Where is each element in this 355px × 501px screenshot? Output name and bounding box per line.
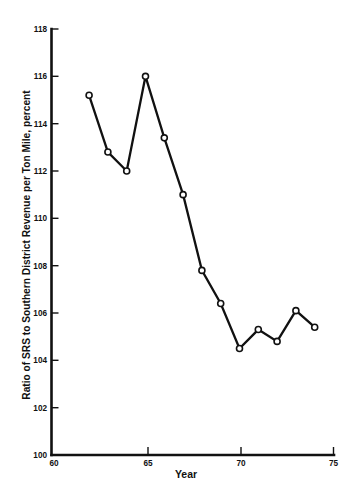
y-tick-label: 110 <box>34 214 48 223</box>
data-point <box>218 301 224 307</box>
data-point <box>124 168 130 174</box>
data-point <box>312 324 318 330</box>
y-tick-label: 104 <box>33 356 47 365</box>
x-tick-label: 60 <box>49 459 59 468</box>
data-point <box>161 135 167 141</box>
y-tick-label: 118 <box>34 25 48 34</box>
data-point <box>255 327 261 333</box>
data-point-markers <box>86 73 318 351</box>
x-tick-labels: 60 65 70 75 <box>49 459 338 468</box>
x-axis-title: Year <box>175 468 197 480</box>
x-tick-label: 65 <box>143 459 153 468</box>
data-point <box>180 192 186 198</box>
y-tick-label: 102 <box>33 404 47 413</box>
data-point <box>237 346 243 352</box>
data-point <box>86 92 92 98</box>
data-point <box>143 73 149 79</box>
y-axis-title: Ratio of SRS to Southern District Revenu… <box>21 90 32 400</box>
y-tick-label: 108 <box>33 262 47 271</box>
data-point <box>274 338 280 344</box>
y-tick-label: 116 <box>34 72 48 81</box>
data-point <box>105 149 111 155</box>
y-tick-label: 100 <box>33 451 47 460</box>
data-line-series <box>89 76 315 348</box>
x-tick-label: 75 <box>329 459 339 468</box>
x-tick-label: 70 <box>236 459 246 468</box>
y-tick-labels: 118 116 114 112 110 108 106 104 102 100 <box>33 25 47 460</box>
chart-figure: 118 116 114 112 110 108 106 104 102 100 … <box>0 0 355 501</box>
data-point <box>293 308 299 314</box>
data-point <box>199 267 205 273</box>
y-tick-label: 114 <box>34 120 48 129</box>
line-chart-svg: 118 116 114 112 110 108 106 104 102 100 … <box>0 0 355 501</box>
y-tick-label: 106 <box>33 309 47 318</box>
y-tick-label: 112 <box>34 167 48 176</box>
